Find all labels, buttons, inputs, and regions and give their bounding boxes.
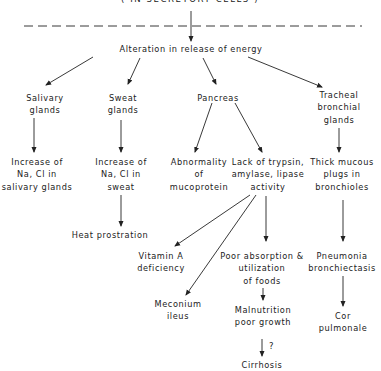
root-node: Alteration in release of energy	[120, 43, 263, 55]
node-meconium-ileus: Meconium ileus	[154, 298, 201, 323]
node-sweat-glands: Sweat glands	[108, 92, 139, 117]
node-cirrhosis: Cirrhosis	[242, 359, 283, 371]
node-mucoprotein-abnormality: Abnormality of mucoprotein	[170, 156, 228, 193]
node-cor-pulmonale: Cor pulmonale	[319, 310, 368, 335]
node-heat-prostration: Heat prostration	[72, 229, 149, 241]
node-sweat-nacl-increase: Increase of Na, Cl in sweat	[95, 156, 147, 193]
node-salivary-glands: Salivary glands	[26, 92, 64, 117]
node-pancreas: Pancreas	[197, 92, 239, 104]
node-enzyme-deficiency: Lack of trypsin, amylase, lipase activit…	[232, 156, 305, 193]
node-vitamin-a-deficiency: Vitamin A deficiency	[137, 250, 185, 275]
uncertain-link-annotation: ?	[269, 340, 274, 352]
node-malnutrition: Malnutrition poor growth	[235, 304, 291, 329]
node-poor-absorption: Poor absorption & utilization of foods	[220, 250, 304, 287]
node-pneumonia-bronchiectasis: Pneumonia bronchiectasis	[308, 250, 376, 275]
node-salivary-nacl-increase: Increase of Na, Cl in salivary glands	[2, 156, 73, 193]
node-tracheal-bronchial-glands: Tracheal bronchial glands	[317, 89, 360, 126]
node-thick-mucous-plugs: Thick mucous plugs in bronchioles	[310, 156, 374, 193]
